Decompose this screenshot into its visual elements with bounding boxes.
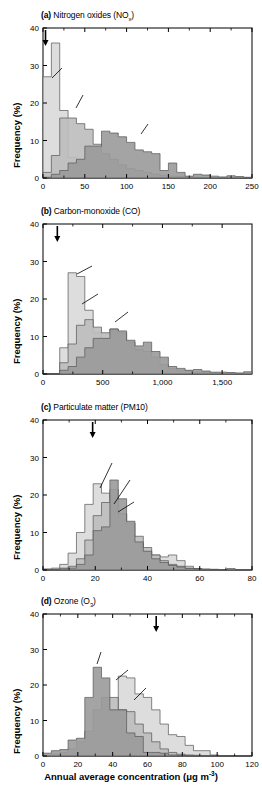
svg-text:50: 50 [80, 182, 89, 191]
svg-text:30: 30 [30, 646, 39, 655]
panel-c: (c) Particulate matter (PM10) Frequency … [0, 392, 262, 588]
svg-text:40: 40 [30, 416, 39, 425]
svg-text:20: 20 [30, 99, 39, 108]
svg-text:10: 10 [30, 717, 39, 726]
svg-text:500: 500 [96, 378, 110, 387]
svg-text:120: 120 [245, 760, 259, 769]
panel-c-plot: 020406080010203040 [0, 392, 262, 588]
svg-text:0: 0 [35, 370, 40, 379]
svg-text:100: 100 [120, 182, 134, 191]
svg-text:10: 10 [30, 529, 39, 538]
panel-a-plot: 050100150200250010203040 [0, 0, 262, 196]
svg-text:60: 60 [143, 760, 152, 769]
panel-d: (d) Ozone (O3) Frequency (%) 2,490 stati… [0, 588, 262, 799]
svg-text:0: 0 [41, 378, 46, 387]
caption-suffix: ) [215, 771, 218, 782]
svg-text:0: 0 [41, 760, 46, 769]
svg-text:20: 20 [30, 491, 39, 500]
svg-text:20: 20 [30, 295, 39, 304]
svg-text:250: 250 [245, 182, 259, 191]
svg-text:0: 0 [35, 566, 40, 575]
svg-text:30: 30 [30, 258, 39, 267]
svg-text:1,500: 1,500 [212, 378, 233, 387]
panel-b: (b) Carbon-monoxide (CO) Frequency (%) 1… [0, 196, 262, 392]
svg-text:40: 40 [30, 220, 39, 229]
svg-text:10: 10 [30, 333, 39, 342]
panel-b-plot: 05001,0001,500010203040 [0, 196, 262, 392]
svg-text:80: 80 [248, 574, 257, 583]
svg-text:20: 20 [91, 574, 100, 583]
svg-text:40: 40 [108, 760, 117, 769]
svg-text:40: 40 [30, 24, 39, 33]
svg-text:40: 40 [143, 574, 152, 583]
caption-prefix: Annual average concentration ( [44, 771, 186, 782]
x-axis-caption: Annual average concentration (μg m-3) [0, 770, 262, 782]
svg-text:0: 0 [41, 182, 46, 191]
caption-unit: μg m [186, 771, 209, 782]
svg-text:0: 0 [35, 752, 40, 761]
svg-text:200: 200 [204, 182, 218, 191]
svg-text:20: 20 [30, 681, 39, 690]
panel-d-plot: 020406080100120010203040 [0, 588, 262, 784]
figure-container: (a) Nitrogen oxides (NOx) Frequency (%) … [0, 0, 262, 799]
svg-text:1,000: 1,000 [152, 378, 173, 387]
svg-text:40: 40 [30, 610, 39, 619]
svg-text:150: 150 [162, 182, 176, 191]
svg-text:0: 0 [41, 574, 46, 583]
svg-text:30: 30 [30, 62, 39, 71]
svg-text:30: 30 [30, 454, 39, 463]
svg-text:60: 60 [195, 574, 204, 583]
panel-a: (a) Nitrogen oxides (NOx) Frequency (%) … [0, 0, 262, 196]
svg-text:100: 100 [210, 760, 224, 769]
svg-text:80: 80 [178, 760, 187, 769]
svg-text:0: 0 [35, 174, 40, 183]
svg-text:20: 20 [73, 760, 82, 769]
svg-text:10: 10 [30, 137, 39, 146]
